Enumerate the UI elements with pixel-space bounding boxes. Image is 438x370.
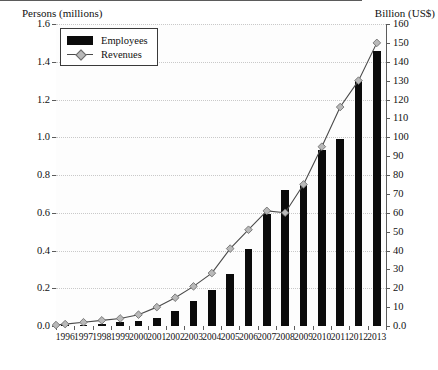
line-series-revenues <box>56 24 386 326</box>
revenue-data-point <box>98 317 106 325</box>
left-axis-tick-label: 0.4 <box>37 246 50 256</box>
left-axis-tick-label: 0.0 <box>37 321 50 331</box>
revenue-data-point <box>116 315 124 323</box>
right-axis-tick-label: 20 <box>393 283 404 293</box>
left-axis-tick-label: 0.8 <box>37 170 50 180</box>
plot-area: 0.00.20.40.60.81.01.21.41.6 0.0102030405… <box>56 24 386 326</box>
revenue-data-point <box>153 303 161 311</box>
x-axis-tick-label: 2011 <box>331 332 350 342</box>
revenue-data-point <box>171 294 179 302</box>
revenue-data-point <box>300 181 308 189</box>
x-axis-tick <box>74 326 75 330</box>
legend-item-revenues: Revenues <box>67 47 148 61</box>
x-axis-tick-label: 1997 <box>74 332 93 342</box>
x-axis-tick-label: 2013 <box>367 332 386 342</box>
right-axis-tick-label: 110 <box>393 113 408 123</box>
x-axis-tick <box>258 326 259 330</box>
x-axis-tick <box>313 326 314 330</box>
x-axis-tick-label: 2001 <box>147 332 166 342</box>
legend-bar-swatch-icon <box>67 36 93 45</box>
right-axis-tick-label: 30 <box>393 264 404 274</box>
right-axis-tick <box>386 81 390 82</box>
x-axis-tick-label: 2004 <box>202 332 221 342</box>
x-axis-tick-label: 2005 <box>221 332 240 342</box>
right-axis-tick-label: 160 <box>393 19 409 29</box>
x-axis-tick-label: 2002 <box>166 332 185 342</box>
right-axis-tick-label: 10 <box>393 302 404 312</box>
x-axis-tick <box>349 326 350 330</box>
x-axis-line <box>0 0 362 1</box>
right-axis-tick-label: 120 <box>393 95 409 105</box>
right-axis-tick <box>386 232 390 233</box>
x-axis-tick-label: 2006 <box>239 332 258 342</box>
right-axis-tick <box>386 251 390 252</box>
x-axis-tick-label: 1996 <box>56 332 75 342</box>
revenue-data-point <box>135 311 143 319</box>
right-axis-tick-label: 50 <box>393 227 404 237</box>
revenue-data-point <box>281 209 289 217</box>
x-axis-tick-label: 2003 <box>184 332 203 342</box>
x-axis-tick <box>331 326 332 330</box>
legend-line-marker-icon <box>67 50 93 59</box>
right-axis-tick <box>386 307 390 308</box>
x-axis-tick <box>239 326 240 330</box>
chart-container: Persons (millions) Billion (US$) 0.00.20… <box>0 0 438 370</box>
chart-legend: Employees Revenues <box>60 28 158 66</box>
x-axis-tick <box>368 326 369 330</box>
right-axis-tick <box>386 156 390 157</box>
revenue-data-point <box>373 39 381 47</box>
right-axis-tick <box>386 43 390 44</box>
right-axis-tick <box>386 175 390 176</box>
right-axis-tick-label: 100 <box>393 132 409 142</box>
left-axis-tick-label: 1.2 <box>37 95 50 105</box>
right-axis-tick <box>386 288 390 289</box>
right-axis-tick <box>386 24 390 25</box>
x-axis-tick <box>294 326 295 330</box>
x-axis-tick <box>221 326 222 330</box>
revenue-data-point <box>190 283 198 291</box>
revenue-data-point <box>80 318 88 326</box>
right-axis-tick-label: 70 <box>393 189 404 199</box>
x-axis-tick <box>203 326 204 330</box>
revenue-data-point <box>61 320 69 328</box>
right-axis-tick-label: 90 <box>393 151 404 161</box>
legend-item-employees: Employees <box>67 33 148 47</box>
legend-label-revenues: Revenues <box>101 49 142 60</box>
left-axis-title: Persons (millions) <box>22 7 102 19</box>
right-axis-tick <box>386 62 390 63</box>
revenue-data-point <box>52 321 60 329</box>
right-axis-tick-label: 40 <box>393 246 404 256</box>
revenue-line-path <box>56 43 377 325</box>
left-axis-tick-label: 1.6 <box>37 19 50 29</box>
x-axis-tick-label: 2010 <box>312 332 331 342</box>
x-axis-tick <box>93 326 94 330</box>
x-axis-tick-label: 2009 <box>294 332 313 342</box>
x-axis-tick-label: 1998 <box>92 332 111 342</box>
x-axis-tick <box>148 326 149 330</box>
x-axis-tick <box>276 326 277 330</box>
x-axis-tick-label: 2008 <box>276 332 295 342</box>
right-axis-tick-label: 150 <box>393 38 409 48</box>
revenue-data-point <box>355 77 363 85</box>
right-axis-tick <box>386 269 390 270</box>
x-axis-tick <box>386 326 387 330</box>
right-axis-tick-label: 60 <box>393 208 404 218</box>
revenue-data-point <box>336 103 344 111</box>
right-axis-tick <box>386 137 390 138</box>
right-axis-tick <box>386 194 390 195</box>
left-axis-tick-label: 1.0 <box>37 132 50 142</box>
x-axis-tick <box>166 326 167 330</box>
x-axis-tick <box>129 326 130 330</box>
revenue-data-point <box>318 143 326 151</box>
right-axis-tick-label: 80 <box>393 170 404 180</box>
x-axis-tick <box>111 326 112 330</box>
x-axis-tick-label: 2007 <box>257 332 276 342</box>
right-axis-tick <box>386 100 390 101</box>
x-axis-tick-label: 2012 <box>349 332 368 342</box>
left-axis-tick-label: 0.6 <box>37 208 50 218</box>
left-axis-tick-label: 0.2 <box>37 283 50 293</box>
x-axis-tick-label: 1999 <box>111 332 130 342</box>
right-axis-tick-label: 130 <box>393 76 409 86</box>
left-axis-tick-label: 1.4 <box>37 57 50 67</box>
x-axis-tick <box>184 326 185 330</box>
